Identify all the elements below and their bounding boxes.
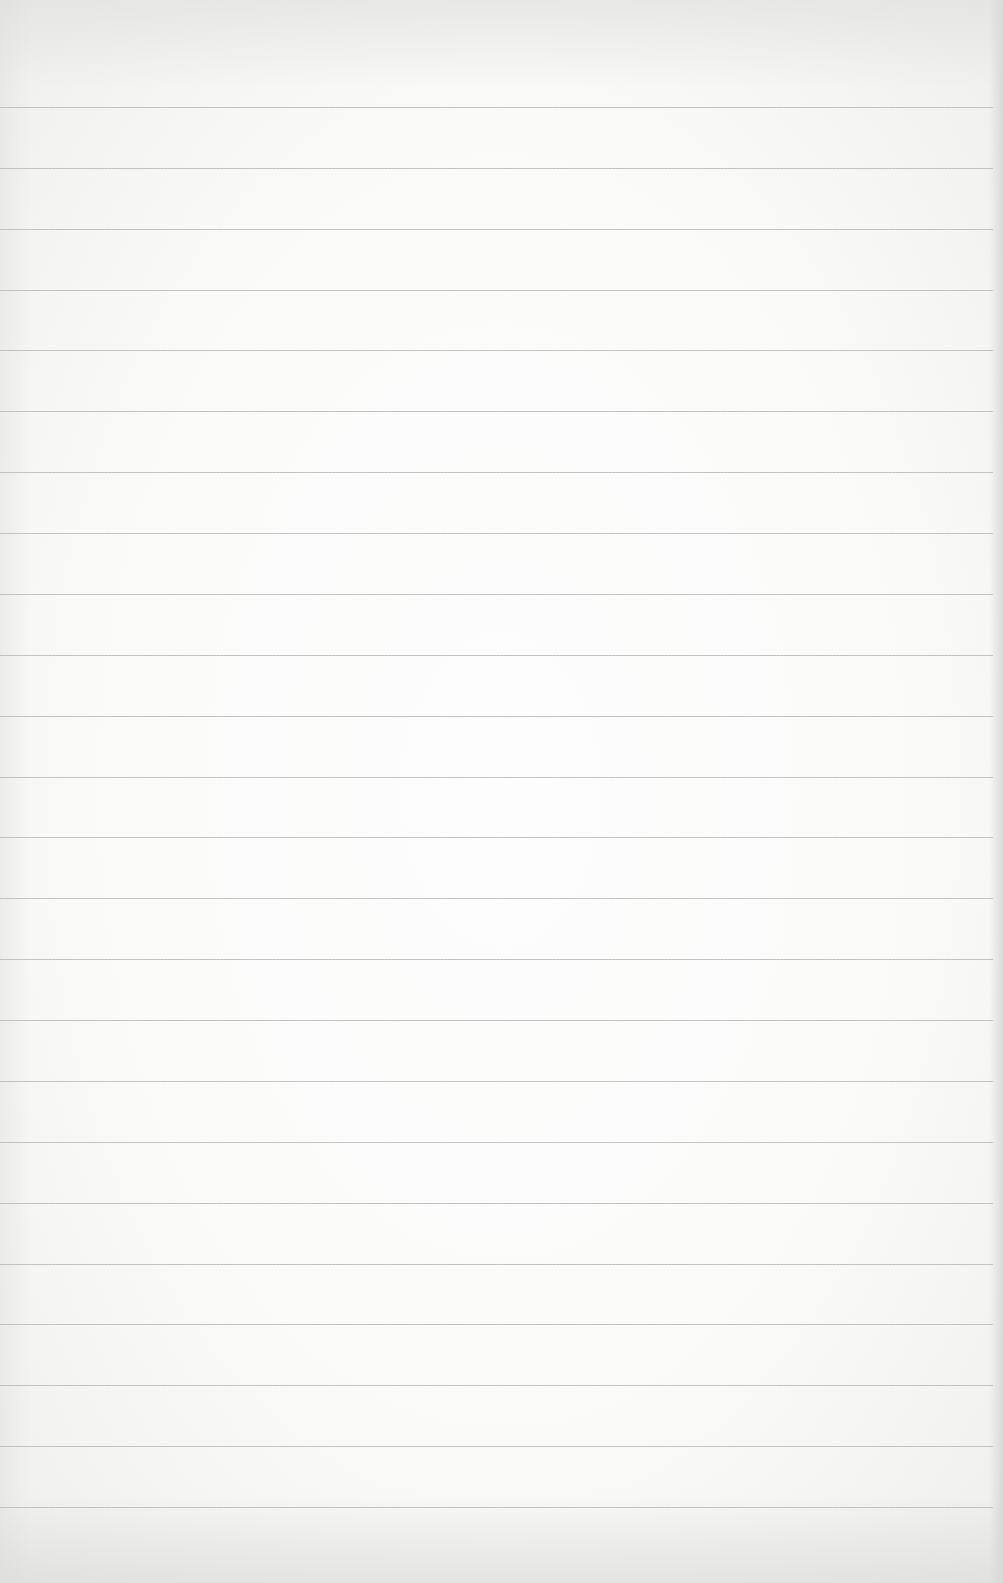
- ruled-line: [0, 1507, 993, 1508]
- lined-paper-sheet: [0, 0, 1003, 1583]
- ruled-line: [0, 777, 993, 778]
- ruled-line: [0, 1385, 993, 1386]
- ruled-line: [0, 837, 993, 838]
- ruled-line: [0, 1203, 993, 1204]
- ruled-line: [0, 1020, 993, 1021]
- ruled-line: [0, 472, 993, 473]
- ruled-line: [0, 1446, 993, 1447]
- ruled-line: [0, 655, 993, 656]
- ruled-line: [0, 1081, 993, 1082]
- ruled-line: [0, 533, 993, 534]
- ruled-line: [0, 107, 993, 108]
- ruled-line: [0, 898, 993, 899]
- ruled-line: [0, 1324, 993, 1325]
- ruled-line: [0, 594, 993, 595]
- ruled-line: [0, 959, 993, 960]
- ruled-line: [0, 1142, 993, 1143]
- ruled-line: [0, 411, 993, 412]
- ruled-line: [0, 290, 993, 291]
- ruled-line: [0, 168, 993, 169]
- ruled-line: [0, 1264, 993, 1265]
- ruled-line: [0, 229, 993, 230]
- ruled-line: [0, 716, 993, 717]
- ruled-line: [0, 350, 993, 351]
